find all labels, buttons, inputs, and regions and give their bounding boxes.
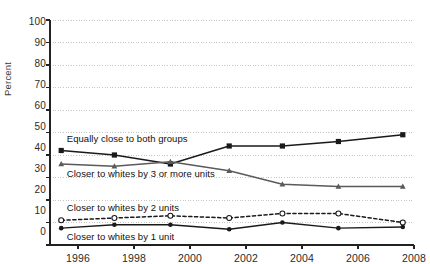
marker-circle <box>227 227 232 232</box>
marker-open-circle <box>400 220 405 225</box>
marker-open-circle <box>227 216 232 221</box>
annotation-1: Closer to whites by 3 or more units <box>67 168 215 179</box>
marker-circle <box>59 226 64 231</box>
annotation-2: Closer to whites by 2 units <box>67 202 179 213</box>
marker-circle <box>112 222 117 227</box>
marker-open-circle <box>168 213 173 218</box>
marker-circle <box>336 226 341 231</box>
x-tick-1996: 1996 <box>54 252 102 264</box>
marker-open-circle <box>59 218 64 223</box>
x-tick-2006: 2006 <box>334 252 382 264</box>
annotation-0: Equally close to both groups <box>67 133 188 144</box>
marker-square <box>59 148 64 153</box>
marker-square <box>336 139 341 144</box>
marker-circle <box>401 225 406 230</box>
x-tick-2008: 2008 <box>390 252 430 264</box>
marker-circle <box>168 222 173 227</box>
marker-square <box>227 143 232 148</box>
marker-circle <box>280 220 285 225</box>
x-tick-2000: 2000 <box>166 252 214 264</box>
marker-square <box>400 132 405 137</box>
series-3 <box>59 220 405 231</box>
marker-open-circle <box>112 216 117 221</box>
x-tick-2004: 2004 <box>278 252 326 264</box>
marker-open-circle <box>280 211 285 216</box>
marker-square <box>112 152 117 157</box>
marker-square <box>280 143 285 148</box>
x-tick-2002: 2002 <box>222 252 270 264</box>
annotation-3: Closer to whites by 1 unit <box>67 231 174 242</box>
marker-open-circle <box>336 211 341 216</box>
x-tick-1998: 1998 <box>110 252 158 264</box>
